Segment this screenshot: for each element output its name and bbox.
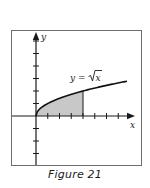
- equation-radicand: x: [96, 73, 101, 83]
- x-axis-arrow-icon: [127, 113, 135, 119]
- x-axis-label: x: [130, 120, 135, 130]
- figure-21: y x y = x Figure 21: [0, 0, 150, 188]
- shaded-region: [36, 91, 83, 116]
- equation-prefix: y =: [69, 73, 86, 83]
- y-axis-label: y: [40, 32, 47, 42]
- figure-caption: Figure 21: [0, 168, 150, 181]
- equation-label: y = x: [69, 71, 102, 84]
- y-axis-arrow-icon: [33, 32, 39, 40]
- sqrt-graph: y x y = x: [0, 0, 150, 188]
